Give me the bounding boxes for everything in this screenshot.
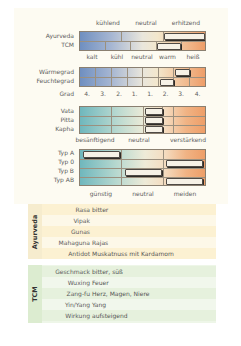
pitta-marker — [145, 117, 163, 124]
label-kuehl: kühl — [104, 53, 130, 61]
table-row: Geschmack bitter, süß — [42, 266, 216, 277]
typ-a-marker — [83, 151, 120, 158]
ayurveda-thermal-marker — [164, 33, 205, 40]
row-key: Yin/Yang — [65, 299, 90, 310]
table-row: Wuxing Feuer — [42, 277, 216, 288]
tcm-table-title: TCM — [31, 286, 39, 302]
tcm-thermal-marker — [157, 43, 181, 50]
row-label-typ-0: Typ 0 — [4, 157, 74, 166]
grade-tick: 1. — [127, 90, 142, 98]
typ-b-marker — [125, 169, 162, 176]
kapha-marker — [145, 126, 163, 133]
grade-tick: 3. — [173, 90, 189, 98]
label-neutral-blood: neutral — [122, 190, 164, 198]
table-row: Vipak — [42, 215, 216, 226]
row-value: Feuer — [92, 277, 109, 288]
row-key: Gunas — [71, 226, 90, 237]
table-row: Yin/Yang Yang — [42, 299, 216, 310]
row-key: Zang-fu — [67, 288, 90, 299]
row-value: bitter, süß — [92, 266, 123, 277]
label-kuehlend: kühlend — [88, 19, 128, 27]
table-row: Antidot Muskatnuss mit Kardamom — [42, 248, 216, 259]
vata-marker — [145, 108, 163, 115]
label-warm: warm — [155, 53, 180, 61]
table-row: Gunas — [42, 226, 216, 237]
table-row: Wirkung aufsteigend — [42, 310, 216, 321]
tcm-table: TCM Geschmack bitter, süß Wuxing Feuer Z… — [28, 265, 216, 323]
row-value: Herz, Magen, Niere — [92, 288, 149, 299]
row-key: Antidot — [68, 248, 90, 259]
feuchtegrad-marker — [160, 79, 174, 86]
label-meiden: meiden — [164, 190, 206, 198]
grade-tick: 4. — [189, 90, 206, 98]
row-label-kapha: Kapha — [4, 124, 74, 133]
grade-tick: 2. — [158, 90, 173, 98]
row-key: Vipak — [73, 215, 90, 226]
grade-axis-label: Grad — [4, 89, 74, 98]
row-label-typ-a: Typ A — [4, 148, 74, 157]
tcm-table-header: TCM — [28, 265, 42, 323]
label-neutral: neutral — [126, 19, 166, 27]
ayurveda-table: Ayurveda Rasa bitter Vipak Gunas Mahagun… — [28, 204, 216, 259]
grade-tick: 2. — [111, 90, 127, 98]
label-guenstig: günstig — [80, 190, 122, 198]
label-verstaerkend: verstärkend — [166, 136, 210, 144]
table-row: Zang-fu Herz, Magen, Niere — [42, 288, 216, 299]
table-row: Rasa bitter — [42, 204, 216, 215]
row-label-typ-b: Typ B — [4, 166, 74, 175]
typ-0-marker — [166, 160, 203, 167]
grade-tick: 4. — [79, 90, 95, 98]
row-value: aufsteigend — [92, 310, 128, 321]
grade-tick: 3. — [95, 90, 111, 98]
label-neutral-tcm: neutral — [129, 53, 155, 61]
row-label-tcm: TCM — [4, 40, 74, 49]
row-label-pitta: Pitta — [4, 115, 74, 124]
grade-scale-bar — [79, 67, 206, 87]
waermegrad-marker — [175, 69, 190, 76]
label-neutral-dosha: neutral — [124, 136, 154, 144]
row-label-vata: Vata — [4, 106, 74, 115]
row-key: Wirkung — [65, 310, 90, 321]
label-heiss: heiß — [180, 53, 206, 61]
row-value: Muskatnuss mit Kardamom — [92, 248, 174, 259]
dosha-scale-bar — [79, 106, 206, 134]
row-key: Wuxing — [68, 277, 90, 288]
thermal-scale-bar — [79, 31, 206, 51]
label-erhitzend: erhitzend — [164, 19, 208, 27]
label-besaenftigend: besänftigend — [70, 136, 120, 144]
label-kalt: kalt — [80, 53, 104, 61]
typ-ab-marker — [166, 178, 203, 185]
ayurveda-table-header: Ayurveda — [28, 204, 42, 259]
row-value: bitter — [92, 204, 108, 215]
row-value: Rajas — [92, 237, 108, 248]
row-key: Mahaguna — [59, 237, 90, 248]
row-label-feuchtegrad: Feuchtegrad — [4, 76, 74, 85]
row-key: Rasa — [75, 204, 90, 215]
row-label-typ-ab: Typ AB — [4, 175, 74, 184]
row-label-ayurveda: Ayurveda — [4, 31, 74, 40]
row-label-waermegrad: Wärmegrad — [4, 67, 74, 76]
table-row: Mahaguna Rajas — [42, 237, 216, 248]
blood-type-scale-bar — [79, 149, 206, 186]
ayurveda-table-title: Ayurveda — [31, 214, 39, 249]
row-key: Geschmack — [55, 266, 90, 277]
grade-tick: 1. — [142, 90, 158, 98]
row-value: Yang — [92, 299, 106, 310]
